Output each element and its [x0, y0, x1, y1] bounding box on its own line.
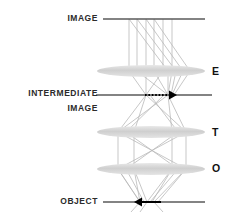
lens-o-ellipse [97, 163, 205, 175]
intermediate-label-line1: INTERMEDIATE [2, 89, 98, 98]
ray-diagram-canvas: IMAGE INTERMEDIATE IMAGE OBJECT E T O [0, 0, 230, 217]
object-plane-label: OBJECT [2, 197, 98, 206]
lens-e-ellipse [97, 65, 205, 77]
eyepiece-label: E [212, 66, 219, 77]
image-plane-label: IMAGE [2, 14, 98, 23]
lens-t-ellipse [97, 126, 205, 138]
objective-label: O [212, 163, 220, 174]
intermediate-label-line2: IMAGE [2, 104, 98, 113]
tube-lens-label: T [212, 127, 218, 138]
ray-bundle-upper [129, 19, 190, 95]
ray-bundle-lower [118, 95, 186, 212]
